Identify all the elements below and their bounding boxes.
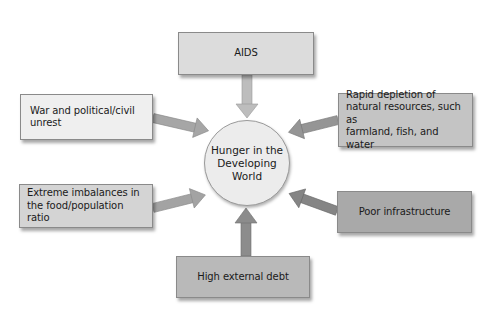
cause-label-debt: High external debt (197, 271, 288, 284)
cause-label-war-line2: unrest (30, 117, 135, 130)
center-label-line1: Hunger (211, 144, 250, 156)
cause-label-aids: AIDS (234, 47, 257, 60)
cause-label-extreme-line2: the food/population ratio (27, 200, 146, 225)
hunger-causes-diagram: AIDS War and political/civil unrest Rapi… (0, 0, 489, 318)
arrow-debt (235, 208, 257, 256)
cause-box-war: War and political/civil unrest (20, 94, 153, 140)
center-label-line2: in the (253, 144, 283, 156)
center-label-line4: World (232, 170, 262, 182)
arrow-poor (286, 184, 341, 220)
center-label-line3: Developing (217, 157, 276, 169)
center-hub-circle: Hunger in the Developing World (204, 120, 290, 206)
cause-label-rapid-line3: farmland, fish, and water (346, 126, 466, 151)
cause-label-rapid-line1: Rapid depletion of (346, 89, 466, 102)
cause-label-war-line1: War and political/civil (30, 105, 135, 118)
cause-box-debt: High external debt (176, 256, 310, 298)
cause-box-rapid: Rapid depletion of natural resources, su… (338, 93, 473, 147)
cause-label-rapid-line2: natural resources, such as (346, 101, 466, 126)
arrow-war (151, 108, 211, 140)
arrow-extreme (151, 185, 208, 217)
cause-box-aids: AIDS (178, 32, 314, 75)
cause-box-extreme: Extreme imbalances in the food/populatio… (19, 184, 153, 228)
cause-box-poor: Poor infrastructure (337, 191, 472, 233)
cause-label-extreme-line1: Extreme imbalances in (27, 187, 146, 200)
arrow-rapid (286, 110, 340, 142)
cause-label-poor: Poor infrastructure (359, 206, 451, 219)
arrow-aids (236, 75, 258, 118)
